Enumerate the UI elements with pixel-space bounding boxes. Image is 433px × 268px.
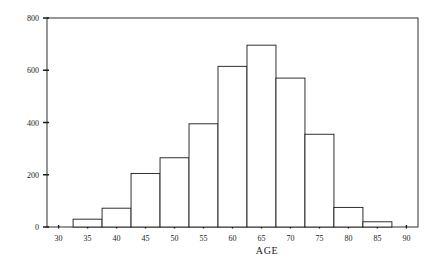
histogram-bar xyxy=(189,124,218,227)
histogram-bar xyxy=(218,66,247,227)
histogram-chart: 0200400600800 30354045505560657075808590… xyxy=(0,0,433,268)
histogram-bar xyxy=(131,173,160,227)
x-tick-label: 55 xyxy=(200,234,208,243)
chart-canvas: 0200400600800 30354045505560657075808590… xyxy=(0,0,433,268)
x-tick-label: 85 xyxy=(373,234,381,243)
histogram-bar xyxy=(334,207,363,227)
histogram-bar xyxy=(73,219,102,227)
x-axis-title: AGE xyxy=(256,245,278,256)
x-tick-label: 45 xyxy=(142,234,150,243)
y-tick-label: 600 xyxy=(27,66,39,75)
histogram-bar xyxy=(102,208,131,227)
x-tick-label: 35 xyxy=(84,234,92,243)
x-tick-label: 80 xyxy=(344,234,352,243)
x-tick-label: 65 xyxy=(257,234,265,243)
x-tick-label: 75 xyxy=(315,234,323,243)
histogram-bar xyxy=(305,134,334,227)
y-tick-label: 200 xyxy=(27,171,39,180)
x-tick-label: 70 xyxy=(286,234,294,243)
histogram-bar xyxy=(247,45,276,227)
x-tick-label: 30 xyxy=(55,234,63,243)
x-tick-label: 50 xyxy=(171,234,179,243)
y-tick-label: 400 xyxy=(27,119,39,128)
x-tick-label: 40 xyxy=(113,234,121,243)
x-tick-label: 60 xyxy=(229,234,237,243)
histogram-bar xyxy=(363,222,392,227)
y-tick-label: 0 xyxy=(35,223,39,232)
y-tick-label: 800 xyxy=(27,14,39,23)
x-tick-label: 90 xyxy=(402,234,410,243)
histogram-bar xyxy=(276,78,305,227)
histogram-bar xyxy=(160,158,189,227)
